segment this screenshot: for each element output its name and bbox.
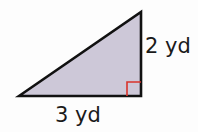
triangle-figure: 2 yd 3 yd bbox=[0, 0, 198, 132]
triangle-diagram: 2 yd 3 yd bbox=[0, 0, 198, 132]
triangle-shape bbox=[19, 12, 141, 96]
horizontal-leg-label: 3 yd bbox=[55, 103, 101, 127]
vertical-leg-label: 2 yd bbox=[145, 34, 191, 58]
